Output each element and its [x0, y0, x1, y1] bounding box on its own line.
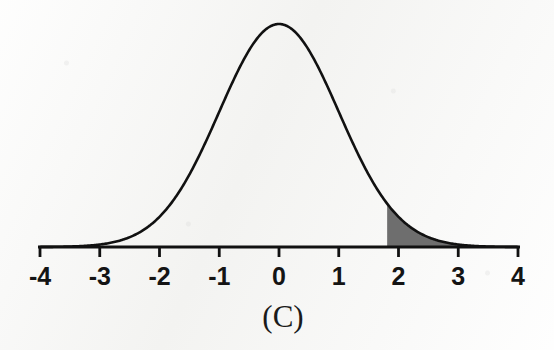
x-axis-tick-label-4: 4 [511, 262, 525, 290]
x-axis-tick-marks [40, 248, 518, 257]
panel-caption: (C) [262, 299, 303, 334]
x-axis-tick-label-3: 3 [451, 262, 465, 290]
normal-curve-figure: -4-3-2-101234 (C) [0, 0, 554, 350]
x-axis-tick-label-2: 2 [392, 262, 406, 290]
normal-distribution-plot: -4-3-2-101234 (C) [0, 0, 554, 350]
x-axis-tick-label-1: 1 [332, 262, 346, 290]
x-axis-tick-label-neg1: -1 [208, 262, 230, 290]
x-axis-tick-labels: -4-3-2-101234 [29, 262, 525, 290]
x-axis-tick-label-neg3: -3 [89, 262, 111, 290]
x-axis-tick-label-neg4: -4 [29, 262, 51, 290]
x-axis-tick-label-neg2: -2 [148, 262, 170, 290]
x-axis-tick-label-0: 0 [272, 262, 286, 290]
normal-density-curve [40, 24, 518, 247]
